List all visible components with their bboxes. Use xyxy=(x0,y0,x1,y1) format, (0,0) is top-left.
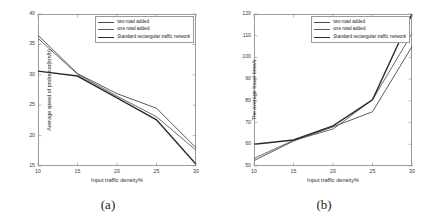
legend-line-swatch-icon xyxy=(98,22,114,23)
plot-area-b: 5060708090100110120 1015202530 Input tra… xyxy=(254,14,412,166)
series-line xyxy=(254,47,412,161)
panel-caption-a: (a) xyxy=(101,197,115,213)
chart-panel-b: 5060708090100110120 1015202530 Input tra… xyxy=(216,0,432,217)
x-tick-label: 10 xyxy=(251,169,257,174)
legend-label: two road added xyxy=(333,20,365,25)
legend-label: two road added xyxy=(117,20,149,25)
x-tick-label: 30 xyxy=(193,169,199,174)
figure-container: 152025303540 1015202530 Input traffic de… xyxy=(0,0,432,217)
y-axis-label-b: The average travel time/s xyxy=(251,60,257,121)
legend-line-swatch-icon xyxy=(314,29,330,30)
x-tick-label: 20 xyxy=(114,169,120,174)
x-axis-label-b: Input traffic density% xyxy=(307,177,359,183)
legend-item: one road added xyxy=(314,27,406,33)
y-tick-label: 120 xyxy=(242,11,251,16)
y-tick-label: 90 xyxy=(245,77,251,82)
y-tick-label: 60 xyxy=(245,142,251,147)
y-tick-label: 110 xyxy=(243,33,251,38)
y-tick-label: 30 xyxy=(29,72,35,77)
legend-line-swatch-icon xyxy=(98,29,114,30)
x-tick-label: 30 xyxy=(409,169,415,174)
x-tick-label: 25 xyxy=(154,169,160,174)
y-tick-label: 100 xyxy=(242,55,251,60)
x-tick-label: 20 xyxy=(330,169,336,174)
panel-caption-b: (b) xyxy=(316,197,331,213)
chart-panel-a: 152025303540 1015202530 Input traffic de… xyxy=(0,0,216,217)
series-line xyxy=(38,71,196,164)
y-tick-label: 80 xyxy=(245,98,251,103)
legend-item: Standard rectangular traffic network xyxy=(98,34,190,40)
legend-item: one road added xyxy=(98,27,190,33)
y-tick-label: 35 xyxy=(29,42,35,47)
x-axis-label-a: Input traffic density% xyxy=(91,177,143,183)
series-line xyxy=(38,35,196,147)
y-tick-label: 70 xyxy=(245,120,251,125)
legend-line-swatch-icon xyxy=(98,37,114,38)
y-tick-label: 25 xyxy=(29,103,35,108)
legend-line-swatch-icon xyxy=(314,37,330,38)
legend-label: one road added xyxy=(117,27,149,32)
legend-label: Standard rectangular traffic network xyxy=(333,35,406,40)
legend-label: Standard rectangular traffic network xyxy=(117,35,190,40)
x-tick-label: 15 xyxy=(75,169,81,174)
plot-area-a: 152025303540 1015202530 Input traffic de… xyxy=(38,14,196,166)
x-tick-label: 25 xyxy=(370,169,376,174)
x-tick-label: 10 xyxy=(35,169,41,174)
series-line xyxy=(254,34,412,159)
series-line xyxy=(38,38,196,150)
x-tick-label: 15 xyxy=(291,169,297,174)
legend-a: two road added one road added Standard r… xyxy=(95,16,194,43)
y-tick-label: 20 xyxy=(29,133,35,138)
legend-item: two road added xyxy=(98,19,190,25)
legend-line-swatch-icon xyxy=(314,22,330,23)
y-tick-label: 40 xyxy=(29,11,35,16)
legend-b: two road added one road added Standard r… xyxy=(311,16,410,43)
y-axis-label-a: Average speed of probe car(km/h) xyxy=(46,49,52,131)
legend-item: two road added xyxy=(314,19,406,25)
legend-item: Standard rectangular traffic network xyxy=(314,34,406,40)
legend-label: one road added xyxy=(333,27,365,32)
